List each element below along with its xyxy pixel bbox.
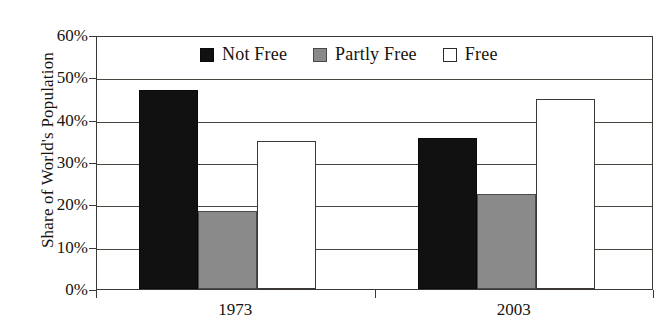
bar-chart: Share of World's Population 60%50%40%30%… — [0, 0, 670, 336]
bar-1973-free — [257, 141, 316, 289]
bar-2003-partly-free — [477, 194, 536, 289]
legend-label: Partly Free — [335, 44, 417, 65]
legend-item-not-free: Not Free — [200, 44, 287, 65]
gridline — [97, 79, 652, 80]
gray-square-icon — [313, 48, 327, 62]
y-axis-tick-label: 40% — [28, 112, 88, 129]
bar-2003-free — [536, 99, 595, 290]
legend-label: Not Free — [222, 44, 287, 65]
y-axis-tick-label: 60% — [28, 27, 88, 44]
x-axis-tick-label: 2003 — [454, 300, 574, 320]
x-axis-tick-label: 1973 — [175, 300, 295, 320]
x-axis-tick-mark — [375, 290, 376, 298]
legend-label: Free — [465, 44, 498, 65]
x-axis-tick-mark — [96, 290, 97, 298]
white-square-icon — [443, 48, 457, 62]
chart-legend: Not FreePartly FreeFree — [200, 44, 498, 65]
legend-item-partly-free: Partly Free — [313, 44, 417, 65]
bar-1973-not-free — [139, 90, 198, 289]
x-axis-tick-mark — [653, 290, 654, 298]
plot-area — [96, 36, 653, 290]
y-axis-tick-label: 30% — [28, 154, 88, 171]
bar-1973-partly-free — [198, 211, 257, 289]
bar-2003-not-free — [418, 138, 477, 289]
y-axis-tick-label: 50% — [28, 69, 88, 86]
y-axis-tick-label: 10% — [28, 239, 88, 256]
y-axis-tick-label: 0% — [28, 281, 88, 298]
y-axis-tick-label: 20% — [28, 196, 88, 213]
legend-item-free: Free — [443, 44, 498, 65]
black-square-icon — [200, 48, 214, 62]
